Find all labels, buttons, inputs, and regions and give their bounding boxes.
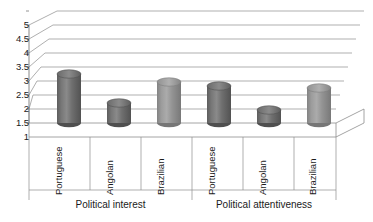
category-label-4: Portuguese — [207, 146, 217, 195]
category-label-3: Brazilian — [156, 159, 166, 195]
category-label-6: Brazilian — [308, 159, 318, 195]
category-label-1: Portuguese — [54, 146, 64, 195]
chart-container: 5 4.5 4 3.5 3 2.5 2 1.5 1 Portuguese Ang… — [0, 0, 373, 222]
group-label-political-interest: Political interest — [29, 199, 192, 210]
category-label-2: Angolan — [105, 160, 115, 195]
category-axis-labels: Portuguese Angolan Brazilian Portuguese … — [0, 0, 373, 222]
group-label-political-attentiveness: Political attentiveness — [192, 199, 336, 210]
category-label-5: Angolan — [258, 160, 268, 195]
